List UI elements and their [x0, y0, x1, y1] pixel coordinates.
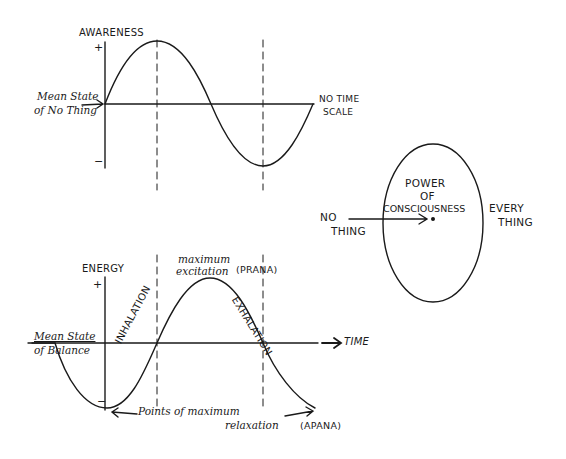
awareness-minus-sign: − — [94, 156, 103, 167]
energy-minus-sign: − — [97, 396, 106, 407]
awareness-mean-label-line2: of No Thing — [34, 105, 97, 116]
peak-label-line2: excitation — [176, 266, 229, 277]
energy-y-label: ENERGY — [82, 264, 124, 274]
consciousness-label-power: POWER — [405, 178, 445, 189]
no-thing-label-line2: THING — [331, 226, 366, 237]
energy-mean-label-line2: of Balance — [34, 345, 90, 356]
awareness-y-label: AWARENESS — [79, 28, 144, 38]
every-thing-label-line1: EVERY — [489, 203, 524, 214]
no-thing-arrow — [349, 214, 427, 224]
peak-label-line1: maximum — [178, 254, 230, 265]
energy-mean-label-line1: Mean State — [34, 331, 95, 342]
relaxation-label-line1: Points of maximum — [138, 406, 240, 417]
every-thing-label-line2: THING — [498, 217, 533, 228]
no-thing-label-line1: NO — [320, 212, 337, 223]
relaxation-left-arrow — [112, 408, 137, 417]
consciousness-ellipse — [383, 144, 483, 302]
apana-label: (APANA) — [300, 421, 341, 431]
energy-plus-sign: + — [93, 279, 102, 290]
consciousness-label-of: OF — [420, 191, 435, 202]
relaxation-right-arrow — [285, 407, 313, 416]
time-axis-label: TIME — [344, 337, 369, 347]
consciousness-center-dot — [432, 218, 435, 221]
awareness-mean-label-line1: Mean State — [37, 91, 98, 102]
prana-label: (PRANA) — [236, 265, 278, 275]
awareness-x-label-line1: NO TIME — [319, 95, 359, 104]
diagram-canvas — [0, 0, 566, 459]
awareness-plus-sign: + — [94, 42, 103, 53]
time-arrow-icon — [322, 338, 341, 348]
consciousness-label-consciousness: CONSCIOUSNESS — [383, 204, 465, 214]
awareness-x-label-line2: SCALE — [323, 108, 353, 117]
relaxation-label-line2: relaxation — [225, 420, 279, 431]
